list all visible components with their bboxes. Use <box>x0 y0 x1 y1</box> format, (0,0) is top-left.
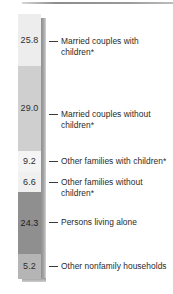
bar-segment-value: 6.6 <box>23 178 36 187</box>
bar-segment-married-without-children[interactable]: 29.0 <box>18 66 41 151</box>
leader-line-other-families-with-children <box>49 161 58 162</box>
category-label-other-families-with-children: Other families with children* <box>61 156 173 167</box>
leader-line-other-families-without-children <box>49 182 58 183</box>
bar-segment-value: 5.2 <box>23 262 36 271</box>
bar-segment-other-nonfamily[interactable]: 5.2 <box>18 254 41 279</box>
bar-segment-married-with-children[interactable]: 25.8 <box>18 14 41 66</box>
stacked-bar: 25.8 29.0 9.2 6.6 24.3 5.2 <box>18 14 41 279</box>
bar-segment-persons-living-alone[interactable]: 24.3 <box>18 192 41 254</box>
bar-segment-value: 29.0 <box>21 104 39 113</box>
bar-segment-value: 9.2 <box>23 157 36 166</box>
bar-segment-other-families-without-children[interactable]: 6.6 <box>18 172 41 192</box>
bar-segment-other-families-with-children[interactable]: 9.2 <box>18 151 41 172</box>
category-label-persons-living-alone: Persons living alone <box>61 217 173 228</box>
bar-shadow-right <box>41 18 46 282</box>
bar-segment-value: 25.8 <box>21 36 39 45</box>
leader-line-persons-living-alone <box>49 222 58 223</box>
category-label-married-with-children: Married couples with children* <box>61 36 173 57</box>
top-divider-rule <box>22 2 173 4</box>
category-label-other-nonfamily: Other nonfamily households <box>61 261 173 272</box>
leader-line-other-nonfamily <box>49 266 58 267</box>
category-label-other-families-without-children: Other families without children* <box>61 177 173 198</box>
category-label-married-without-children: Married couples without children* <box>61 109 173 130</box>
stacked-bar-chart: 25.8 29.0 9.2 6.6 24.3 5.2 <box>18 14 46 282</box>
leader-line-married-with-children <box>49 41 58 42</box>
bar-segment-value: 24.3 <box>21 219 39 228</box>
chart-figure: 25.8 29.0 9.2 6.6 24.3 5.2 Married coupl… <box>0 0 173 294</box>
leader-line-married-without-children <box>49 114 58 115</box>
